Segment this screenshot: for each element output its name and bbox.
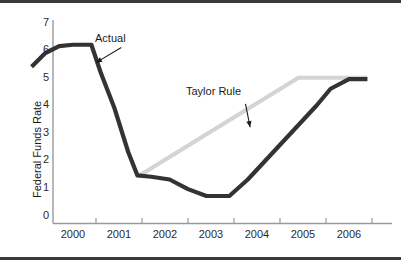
annotation-label-taylor-rule: Taylor Rule (186, 85, 241, 97)
y-tick-label: 2 (35, 153, 49, 165)
annotation-arrow-head (246, 121, 251, 127)
x-tick-label: 2003 (188, 228, 234, 240)
x-axis-ticks (96, 218, 372, 224)
y-tick-label: 7 (35, 16, 49, 28)
y-tick-label: 0 (35, 209, 49, 221)
axis-lines (53, 20, 392, 224)
y-tick-label: 6 (35, 43, 49, 55)
x-tick-label: 2004 (234, 228, 280, 240)
series-line-actual (32, 45, 368, 196)
x-tick-label: 2001 (96, 228, 142, 240)
x-tick-label: 2005 (280, 228, 326, 240)
x-tick-label: 2002 (142, 228, 188, 240)
chart-figure: Federal Funds Rate 7 6 5 4 3 2 1 0 2000 … (0, 0, 401, 260)
plot-area (0, 0, 401, 260)
y-tick-label: 4 (35, 98, 49, 110)
y-tick-label: 1 (35, 181, 49, 193)
y-tick-label: 3 (35, 126, 49, 138)
annotation-label-actual: Actual (95, 32, 126, 44)
series-line-taylor-rule (137, 78, 367, 177)
x-tick-label: 2006 (326, 228, 372, 240)
y-tick-label: 5 (35, 71, 49, 83)
x-tick-label: 2000 (50, 228, 96, 240)
